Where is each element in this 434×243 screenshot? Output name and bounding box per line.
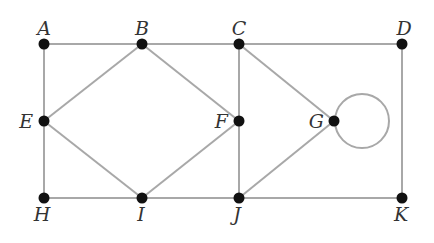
node-label-j: J — [229, 203, 242, 225]
edge-g-j — [239, 121, 334, 198]
node-j — [234, 193, 245, 204]
node-label-h: H — [33, 203, 51, 225]
node-c — [234, 39, 245, 50]
node-label-k: K — [393, 203, 410, 225]
node-k — [397, 193, 408, 204]
node-i — [137, 193, 148, 204]
node-f — [234, 116, 245, 127]
edge-e-i — [44, 121, 142, 198]
edge-i-f — [142, 121, 239, 198]
graph-diagram: ABCDEFGHIJK — [0, 0, 434, 243]
node-label-e: E — [18, 110, 33, 132]
node-label-c: C — [232, 17, 247, 39]
node-a — [39, 39, 50, 50]
node-label-b: B — [134, 17, 149, 39]
node-label-a: A — [35, 17, 51, 39]
node-b — [137, 39, 148, 50]
loop-g — [335, 94, 389, 148]
node-label-d: D — [395, 17, 411, 39]
node-label-i: I — [136, 203, 145, 225]
node-label-g: G — [309, 110, 324, 132]
node-e — [39, 116, 50, 127]
node-label-f: F — [214, 110, 229, 132]
edge-b-e — [44, 44, 142, 121]
node-h — [39, 193, 50, 204]
node-g — [329, 116, 340, 127]
loops-layer — [335, 94, 389, 148]
labels-layer: ABCDEFGHIJK — [18, 17, 411, 225]
node-d — [397, 39, 408, 50]
